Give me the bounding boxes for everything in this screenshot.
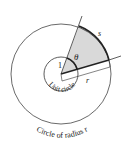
outer-circle-label: Circle of radius r — [35, 124, 89, 139]
unit-radius-label: 1 — [58, 61, 62, 70]
theta-label: θ — [74, 52, 79, 62]
ray-lower-ext — [109, 56, 121, 60]
arc-s-label: s — [98, 29, 101, 38]
radius-r-label: r — [86, 76, 90, 85]
radian-diagram: θ s 1 r Unit circle Circle of radius r — [0, 0, 121, 149]
dim-tick-start — [61, 74, 62, 81]
unit-circle-label: Unit circle — [47, 80, 78, 94]
